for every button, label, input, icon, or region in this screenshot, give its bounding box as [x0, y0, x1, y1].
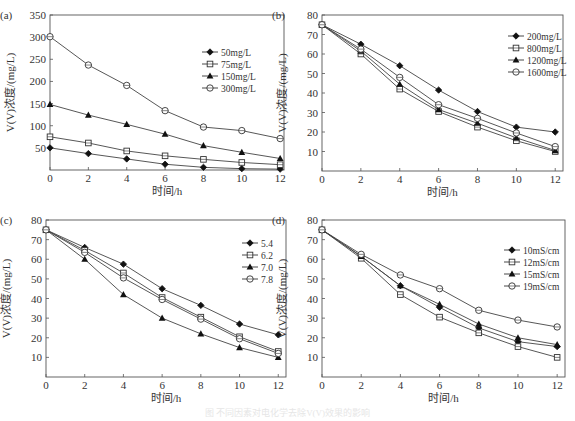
panel-label: (d): [272, 214, 285, 227]
x-tick-label: 12: [552, 379, 563, 391]
x-tick-label: 6: [437, 379, 443, 391]
y-tick-label: 50: [307, 273, 319, 285]
legend-label: 19mS/cm: [523, 282, 560, 292]
y-tick-label: 10: [307, 351, 319, 363]
x-axis-label: 时间/h: [428, 392, 459, 404]
chart-d-svg: 0246810121020304050607080(d)时间/hV(V)浓度/(…: [0, 0, 575, 421]
y-axis-label: V(V)浓度/(mg/L): [275, 258, 289, 338]
triangle-marker-icon: [509, 270, 516, 276]
y-tick-label: 40: [307, 293, 319, 305]
x-tick-label: 0: [319, 379, 325, 391]
y-tick-label: 70: [307, 234, 319, 246]
x-tick-label: 4: [398, 379, 404, 391]
diamond-marker-icon: [509, 247, 515, 253]
legend-label: 10mS/cm: [523, 246, 560, 256]
y-tick-label: 80: [307, 214, 319, 226]
plot-frame: [322, 220, 565, 377]
legend-label: 12mS/cm: [523, 258, 560, 268]
x-tick-label: 10: [512, 379, 524, 391]
legend-label: 15mS/cm: [523, 270, 560, 280]
triangle-marker-icon: [475, 320, 482, 326]
figure-caption: 图 不同因素对电化学去除V(V)效果的影响: [0, 406, 575, 419]
series-line: [322, 230, 557, 327]
legend: 10mS/cm12mS/cm15mS/cm19mS/cm: [504, 246, 560, 292]
x-tick-label: 8: [476, 379, 482, 391]
y-tick-label: 30: [307, 312, 319, 324]
y-tick-label: 60: [307, 253, 319, 265]
triangle-marker-icon: [436, 301, 443, 307]
y-tick-label: 20: [307, 332, 319, 344]
x-tick-label: 2: [358, 379, 364, 391]
